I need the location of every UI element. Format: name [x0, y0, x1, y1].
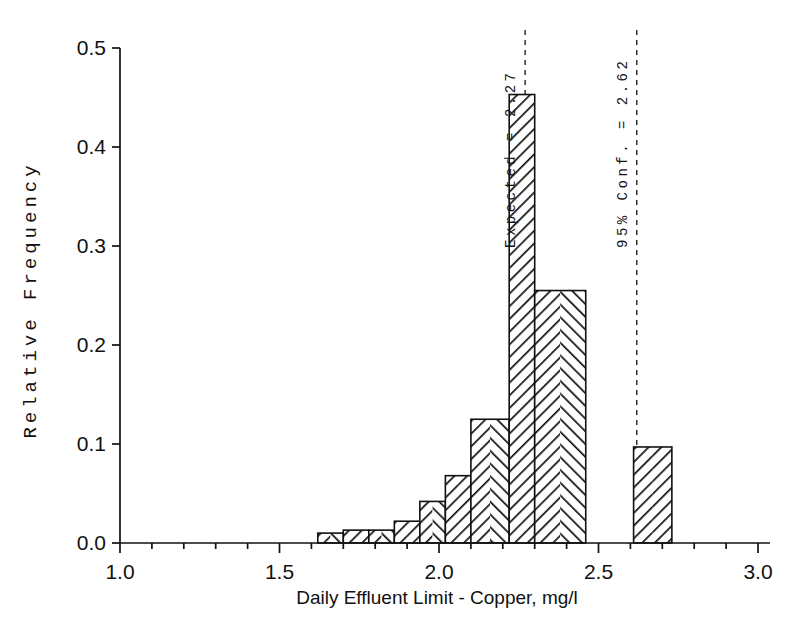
histogram-bar	[471, 419, 509, 543]
histogram-bar	[445, 476, 471, 543]
y-axis-title: Relative Frequency	[20, 161, 42, 438]
histogram-svg: Expected = 2.2795% Conf. = 2.62 0.00.10.…	[0, 0, 794, 633]
chart-figure: Expected = 2.2795% Conf. = 2.62 0.00.10.…	[0, 0, 794, 633]
x-tick-label: 3.0	[743, 560, 772, 583]
y-tick-label: 0.1	[77, 432, 106, 455]
histogram-bar	[535, 291, 586, 543]
y-tick-label: 0.5	[77, 36, 106, 59]
plot-area: Expected = 2.2795% Conf. = 2.62 0.00.10.…	[0, 0, 794, 633]
histogram-bar	[343, 530, 369, 543]
y-tick-label: 0.2	[77, 333, 106, 356]
histogram-bar	[369, 530, 395, 543]
y-tick-label: 0.3	[77, 234, 106, 257]
x-tick-label: 1.5	[265, 560, 294, 583]
histogram-bar	[394, 521, 420, 543]
x-tick-label: 2.0	[424, 560, 453, 583]
y-tick-label: 0.4	[77, 135, 107, 158]
x-tick-label: 2.5	[584, 560, 613, 583]
histogram-bar	[634, 447, 672, 543]
annotation-label-conf95: 95% Conf. = 2.62	[615, 58, 631, 248]
histogram-bar	[420, 501, 446, 543]
annotation-label-expected: Expected = 2.27	[503, 69, 519, 248]
histogram-bar	[318, 533, 344, 543]
x-tick-label: 1.0	[105, 560, 134, 583]
y-tick-label: 0.0	[77, 531, 106, 554]
x-axis-title: Daily Effluent Limit - Copper, mg/l	[296, 587, 578, 608]
